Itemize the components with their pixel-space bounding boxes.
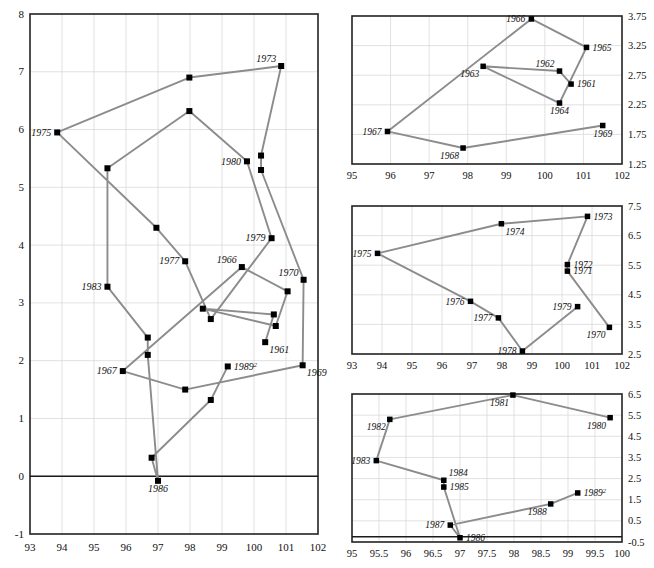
- data-point-marker: [149, 455, 155, 461]
- data-point-marker: [600, 123, 606, 128]
- panel-1980-1989: 1980198119821983198419851986198719881989…: [336, 380, 654, 568]
- y-tick-label: 2.5: [628, 349, 641, 360]
- y-tick-label: 7: [19, 65, 25, 77]
- y-tick-label: 3.5: [628, 452, 641, 463]
- x-tick-label: 100: [537, 170, 553, 181]
- data-point-marker: [104, 284, 110, 290]
- point-label-1970: 1970: [279, 267, 299, 278]
- data-point-marker: [301, 277, 307, 283]
- x-tick-label: 98: [185, 541, 197, 553]
- x-tick-label: 100: [614, 548, 630, 559]
- point-label-1982: 1982: [367, 422, 386, 432]
- y-tick-label: 1: [19, 412, 25, 424]
- data-point-marker: [529, 16, 535, 22]
- x-tick-label: 97: [455, 548, 466, 559]
- panel-1970-1979: 1970197119721973197419751976197719781979…: [336, 192, 654, 380]
- data-point-marker: [239, 264, 245, 270]
- y-tick-label: 3.75: [628, 11, 646, 22]
- point-label-1977: 1977: [159, 255, 180, 266]
- x-tick-label: 95.5: [370, 548, 388, 559]
- x-tick-label: 96: [121, 541, 133, 553]
- point-label-1984: 1984: [449, 468, 468, 478]
- data-point-marker: [520, 348, 526, 354]
- y-tick-label: 0: [19, 470, 25, 482]
- data-point-marker: [565, 268, 571, 274]
- point-label-1964: 1964: [550, 106, 569, 116]
- point-label-1969: 1969: [593, 129, 612, 139]
- point-label-1986: 1986: [148, 483, 168, 494]
- point-label-1961: 1961: [577, 79, 596, 89]
- x-tick-label: 99: [217, 541, 229, 553]
- point-label-superscript: 2: [254, 360, 258, 367]
- y-tick-label: 1.75: [628, 129, 646, 140]
- x-tick-label: 95: [407, 360, 418, 371]
- point-label-1966: 1966: [506, 14, 525, 24]
- data-point-marker: [387, 417, 393, 423]
- x-tick-label: 98: [509, 548, 520, 559]
- point-label-1977: 1977: [473, 313, 493, 323]
- point-label-1973: 1973: [256, 53, 276, 64]
- y-tick-label: 3.25: [628, 40, 646, 51]
- data-point-marker: [448, 522, 454, 528]
- plot-frame: [352, 206, 622, 354]
- x-tick-label: 95: [89, 541, 101, 553]
- y-tick-label: 4: [19, 239, 25, 251]
- data-point-marker: [300, 362, 306, 368]
- y-tick-label: 4.5: [628, 289, 641, 300]
- point-label-1973: 1973: [594, 212, 613, 222]
- y-tick-label: 2.25: [628, 99, 646, 110]
- x-tick-label: 98: [462, 170, 473, 181]
- data-point-marker: [548, 501, 554, 507]
- data-point-marker: [499, 221, 505, 227]
- x-tick-label: 99: [563, 548, 574, 559]
- point-label-1981: 1981: [490, 398, 509, 408]
- point-label-1974: 1974: [505, 227, 524, 237]
- x-tick-label: 100: [554, 360, 570, 371]
- panel-1961-1969-group: 1961196219631964196519661967196819699596…: [347, 11, 647, 181]
- x-tick-label: 97: [424, 170, 435, 181]
- x-tick-label: 94: [57, 541, 69, 553]
- data-point-marker: [182, 258, 188, 264]
- x-tick-label: 102: [614, 170, 630, 181]
- x-tick-label: 101: [584, 360, 600, 371]
- point-label-1988: 1988: [528, 507, 547, 517]
- x-tick-label: 93: [25, 541, 37, 553]
- panel-1980-1989-group: 1980198119821983198419851986198719881989…: [347, 389, 645, 559]
- point-label-1966: 1966: [217, 254, 237, 265]
- panel-1961-1969: 1961196219631964196519661967196819699596…: [336, 2, 654, 190]
- main-panel-group: 1961196619671969197019731975197719791980…: [15, 8, 327, 553]
- y-tick-label: 3: [19, 296, 25, 308]
- data-point-marker: [510, 392, 516, 398]
- data-point-marker: [584, 45, 590, 51]
- point-label-1979: 1979: [553, 302, 572, 312]
- x-tick-label: 97.5: [478, 548, 496, 559]
- point-label-1983: 1983: [351, 456, 370, 466]
- point-label-1975: 1975: [353, 249, 372, 259]
- x-tick-label: 101: [278, 541, 295, 553]
- data-point-marker: [258, 167, 264, 173]
- y-tick-label: 4.5: [628, 431, 641, 442]
- x-tick-label: 94: [377, 360, 388, 371]
- data-point-marker: [480, 64, 486, 70]
- data-point-marker: [385, 129, 391, 135]
- point-label-1963: 1963: [460, 69, 479, 79]
- x-tick-label: 98: [497, 360, 508, 371]
- data-point-marker: [575, 490, 581, 496]
- point-label-1975: 1975: [31, 127, 51, 138]
- x-tick-label: 96: [401, 548, 412, 559]
- point-label-1979: 1979: [246, 232, 266, 243]
- x-tick-label: 95: [347, 170, 358, 181]
- y-tick-label: 5: [19, 181, 25, 193]
- data-point-marker: [575, 304, 581, 310]
- data-point-marker: [557, 100, 563, 106]
- y-tick-label: -0.5: [628, 537, 645, 548]
- y-tick-label: 2: [19, 354, 25, 366]
- data-point-marker: [208, 316, 214, 322]
- data-point-marker: [468, 299, 474, 305]
- point-label-1961: 1961: [269, 344, 289, 355]
- y-tick-label: 5.5: [628, 260, 641, 271]
- data-point-marker: [441, 478, 447, 484]
- point-label-1983: 1983: [81, 281, 101, 292]
- y-tick-label: 5.5: [628, 410, 641, 421]
- data-point-marker: [186, 108, 192, 114]
